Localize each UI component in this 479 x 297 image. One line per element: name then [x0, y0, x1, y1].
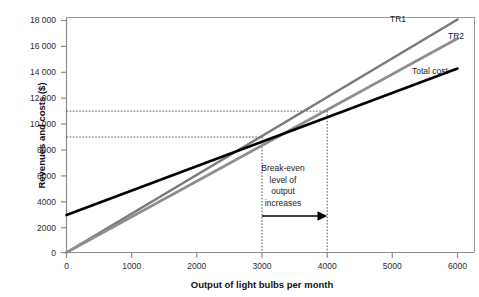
- break-even-annotation-line-4: increases: [244, 198, 322, 210]
- x-tick-marks: [67, 253, 458, 259]
- x-tick-label-5000: 5000: [369, 261, 415, 271]
- y-tick-marks: [61, 21, 67, 253]
- x-tick-label-3000: 3000: [239, 261, 285, 271]
- y-tick-label-18000: 18 000: [12, 15, 56, 25]
- y-axis-title: Revenues and costs ($): [36, 51, 47, 221]
- y-tick-label-4000: 4000: [12, 197, 56, 207]
- y-tick-label-8000: 8000: [12, 145, 56, 155]
- x-tick-label-6000: 6000: [435, 261, 479, 271]
- break-even-annotation-line-2: level of: [244, 175, 322, 187]
- series-label-tr1: TR1: [390, 14, 406, 24]
- y-tick-label-12000: 12 000: [12, 93, 56, 103]
- break-even-annotation: Break-even level of output increases: [244, 163, 322, 209]
- break-even-annotation-line-3: output: [244, 186, 322, 198]
- y-tick-label-6000: 6000: [12, 171, 56, 181]
- x-axis-title: Output of light bulbs per month: [66, 279, 458, 290]
- x-tick-label-2000: 2000: [174, 261, 220, 271]
- y-tick-label-0: 0: [12, 248, 56, 258]
- x-tick-label-0: 0: [44, 261, 90, 271]
- x-tick-label-1000: 1000: [109, 261, 155, 271]
- chart-canvas: [0, 0, 479, 297]
- y-tick-label-2000: 2000: [12, 223, 56, 233]
- y-tick-label-16000: 16 000: [12, 41, 56, 51]
- y-tick-label-14000: 14 000: [12, 67, 56, 77]
- break-even-annotation-line-1: Break-even: [244, 163, 322, 175]
- x-tick-label-4000: 4000: [304, 261, 350, 271]
- break-even-arrow: [262, 211, 327, 220]
- y-tick-label-10000: 10 000: [12, 119, 56, 129]
- chart-figure: 18 000 16 000 14 000 12 000 10 000 8000 …: [0, 0, 479, 297]
- series-label-tr2: TR2: [448, 31, 464, 41]
- series-label-total-cost: Total cost: [412, 66, 448, 76]
